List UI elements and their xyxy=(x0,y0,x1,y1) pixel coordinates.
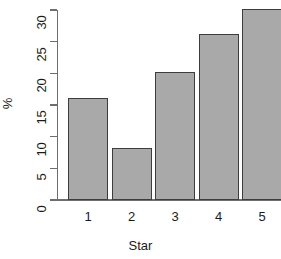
bar xyxy=(199,34,239,200)
bar-chart: 051015202530 % 12345 Star xyxy=(0,0,281,259)
bar xyxy=(112,148,152,200)
y-axis-tick-label-text: 25 xyxy=(34,47,49,61)
y-axis-tick-label-text: 10 xyxy=(34,142,49,156)
y-axis-tick-label: 30 xyxy=(0,2,48,17)
y-axis-title: % xyxy=(0,98,15,110)
y-axis-tick xyxy=(50,9,57,10)
y-axis-tick-label: 20 xyxy=(0,65,48,80)
y-axis-tick-label: 0 xyxy=(0,192,48,207)
y-axis-tick xyxy=(50,73,57,74)
x-axis-tick-label: 3 xyxy=(155,209,195,224)
y-axis-tick-label: 5 xyxy=(0,160,48,175)
y-axis-tick-label-text: 0 xyxy=(34,206,49,213)
y-axis-tick-label-text: 20 xyxy=(34,79,49,93)
y-axis-tick-label: 25 xyxy=(0,34,48,49)
y-axis-tick xyxy=(50,136,57,137)
y-axis-line xyxy=(57,10,58,200)
y-axis-tick-label-text: 15 xyxy=(34,111,49,125)
bar xyxy=(242,9,281,200)
x-axis-tick-label: 2 xyxy=(112,209,152,224)
bar xyxy=(155,72,195,200)
y-axis-tick-label: 10 xyxy=(0,129,48,144)
y-axis-tick xyxy=(50,41,57,42)
x-axis-tick-label: 5 xyxy=(242,209,281,224)
x-axis-tick-label: 1 xyxy=(68,209,108,224)
y-axis-tick xyxy=(50,168,57,169)
y-axis-tick xyxy=(50,104,57,105)
x-axis-tick-label: 4 xyxy=(199,209,239,224)
bar xyxy=(68,98,108,200)
y-axis-tick xyxy=(50,199,57,200)
y-axis-tick-label-text: 30 xyxy=(34,16,49,30)
x-axis-title: Star xyxy=(0,238,281,253)
y-axis-tick-label-text: 5 xyxy=(34,174,49,181)
